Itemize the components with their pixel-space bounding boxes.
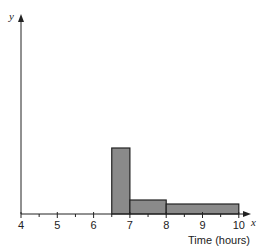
histogram-bars xyxy=(112,148,239,214)
y-axis-arrow-icon xyxy=(18,14,24,22)
x-axis-arrow-icon xyxy=(243,211,251,217)
x-tick-label: 6 xyxy=(91,219,97,231)
histogram-bar xyxy=(130,200,166,214)
x-axis-variable: x xyxy=(250,216,256,228)
x-tick-label: 8 xyxy=(163,219,169,231)
x-tick-labels: 45678910 xyxy=(18,219,245,231)
x-tick-label: 4 xyxy=(18,219,24,231)
y-axis-variable: y xyxy=(8,10,14,22)
histogram-bar xyxy=(112,148,130,214)
x-tick-label: 9 xyxy=(199,219,205,231)
axes xyxy=(18,14,251,217)
x-axis-label: Time (hours) xyxy=(188,234,250,246)
x-tick-label: 10 xyxy=(233,219,245,231)
histogram-chart: 45678910 y x Time (hours) xyxy=(0,0,262,251)
x-tick-label: 7 xyxy=(127,219,133,231)
x-tick-label: 5 xyxy=(54,219,60,231)
